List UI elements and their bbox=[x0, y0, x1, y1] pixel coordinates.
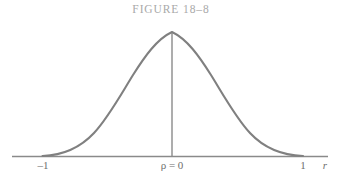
normal-curve bbox=[43, 32, 304, 156]
x-tick-label-minus-one: –1 bbox=[30, 159, 56, 171]
figure-container: FIGURE 18–8 –1 ρ = 0 1 r bbox=[0, 0, 342, 181]
x-tick-label-plus-one: 1 bbox=[291, 159, 315, 171]
x-tick-label-rho-zero: ρ = 0 bbox=[148, 159, 196, 171]
distribution-plot bbox=[0, 0, 342, 181]
x-axis-variable-label: r bbox=[316, 159, 334, 171]
